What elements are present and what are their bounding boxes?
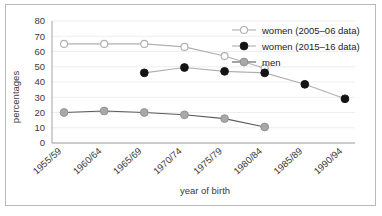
data-point [100, 107, 108, 115]
y-tick-label: 80 [34, 15, 45, 26]
y-tick-label: 60 [34, 46, 45, 57]
series-line [64, 44, 265, 68]
y-tick-label: 0 [40, 137, 45, 148]
data-point [221, 115, 229, 123]
line-chart: 80706050403020100 1955/591960/641965/691… [0, 0, 382, 216]
x-tick-label: 1965/69 [111, 145, 144, 176]
data-point [181, 111, 189, 119]
y-axis-title: percentages [10, 71, 21, 124]
y-axis-tick-labels: 80706050403020100 [34, 15, 45, 148]
y-tick-label: 70 [34, 31, 45, 42]
x-tick-label: 1985/89 [271, 145, 304, 176]
y-tick-label: 20 [34, 107, 45, 118]
y-tick-label: 10 [34, 122, 45, 133]
x-tick-label: 1975/79 [191, 145, 224, 176]
data-series-layer [60, 40, 349, 131]
y-tick-label: 30 [34, 92, 45, 103]
data-point [261, 123, 269, 131]
data-point [261, 69, 269, 77]
data-point [140, 109, 148, 117]
legend-item-0[interactable]: women (2005–06 data) [232, 25, 360, 36]
x-tick-label: 1990/94 [311, 145, 344, 176]
data-point [301, 80, 309, 88]
chart-figure: 80706050403020100 1955/591960/641965/691… [0, 0, 382, 216]
data-point [221, 53, 228, 60]
x-tick-label: 1980/84 [231, 145, 264, 176]
legend-marker [240, 42, 248, 50]
legend-marker [241, 27, 248, 34]
y-tick-label: 40 [34, 76, 45, 87]
data-point [60, 109, 68, 117]
y-tick-label: 50 [34, 61, 45, 72]
x-axis-tick-labels: 1955/591960/641965/691970/741975/791980/… [30, 145, 344, 176]
series-line [64, 111, 265, 127]
x-tick-label: 1970/74 [151, 145, 184, 176]
data-point [221, 67, 229, 75]
data-point [101, 40, 108, 47]
data-point [141, 40, 148, 47]
gridlines [52, 21, 355, 143]
data-point [61, 40, 68, 47]
legend-label: women (2005–06 data) [261, 25, 360, 36]
data-point [140, 69, 148, 77]
data-point [341, 95, 349, 103]
legend-item-1[interactable]: women (2015–16 data) [232, 41, 360, 52]
series-1 [140, 64, 348, 103]
x-axis-title: year of birth [180, 185, 230, 196]
data-point [181, 43, 188, 50]
axis-titles: percentages year of birth [10, 71, 230, 196]
series-line [144, 68, 345, 99]
legend-label: men [262, 57, 280, 68]
legend-label: women (2015–16 data) [261, 41, 360, 52]
data-point [181, 64, 189, 72]
x-tick-label: 1955/59 [30, 145, 63, 176]
chart-legend: women (2005–06 data)women (2015–16 data)… [232, 25, 360, 68]
legend-marker [240, 58, 248, 66]
x-tick-label: 1960/64 [71, 145, 104, 176]
series-2 [60, 107, 268, 131]
